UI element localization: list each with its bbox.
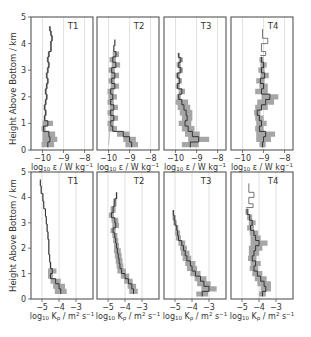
panel-label: T2 xyxy=(133,21,145,31)
y-tick-label: 1 xyxy=(21,119,26,128)
y-tick-label: 4 xyxy=(21,193,26,202)
y-tick-label: 1 xyxy=(21,270,26,279)
panel-label: T4 xyxy=(267,21,279,31)
y-tick-label: 2 xyxy=(21,93,26,102)
x-axis-label: log10 ε / W kg−1 xyxy=(91,162,165,172)
panel-label: T3 xyxy=(200,21,212,31)
panel-label: T1 xyxy=(67,21,79,31)
panel-frame xyxy=(97,17,159,150)
y-tick-label: 0 xyxy=(21,295,26,304)
panel-frame xyxy=(31,172,93,299)
y-tick-label: 0 xyxy=(21,146,26,155)
y-tick-label: 2 xyxy=(21,244,26,253)
x-axis-label: log10 ε / W kg−1 xyxy=(158,162,232,172)
x-axis-label: log10 ε / W kg−1 xyxy=(25,162,99,172)
y-tick-label: 5 xyxy=(21,13,26,22)
panel-bottom-T1: −5−4−3T1 xyxy=(31,172,93,312)
panel-top-T4: −10−9−8T4 xyxy=(231,17,293,163)
x-axis-label: log10 Kρ / m2 s−1 xyxy=(158,311,232,321)
panel-frame xyxy=(164,17,226,150)
x-axis-label: log10 Kρ / m2 s−1 xyxy=(25,311,99,321)
profile-line xyxy=(173,210,209,296)
panel-label: T3 xyxy=(200,176,212,186)
y-tick-label: 4 xyxy=(21,40,26,49)
y-axis-label-bottom: Height Above Bottom / km xyxy=(8,179,18,292)
x-axis-label: log10 ε / W kg−1 xyxy=(225,162,299,172)
panel-bottom-T3: −5−4−3T3 xyxy=(164,172,226,312)
uncertainty-band xyxy=(254,57,278,147)
panel-label: T4 xyxy=(267,176,279,186)
panel-top-T3: −10−9−8T3 xyxy=(164,17,226,163)
uncertainty-band xyxy=(172,210,216,296)
unshaded-profile-line xyxy=(246,183,254,207)
x-axis-label: log10 Kρ / m2 s−1 xyxy=(225,311,299,321)
panel-top-T1: −10−9−8T1 xyxy=(31,17,93,163)
panel-bottom-T2: −5−4−3T2 xyxy=(97,172,159,312)
y-tick-label: 3 xyxy=(21,66,26,75)
uncertainty-band xyxy=(40,180,67,294)
panel-top-T2: −10−9−8T2 xyxy=(97,17,159,163)
panel-frame xyxy=(31,17,93,150)
unshaded-profile-line xyxy=(260,29,267,56)
y-tick-label: 3 xyxy=(21,219,26,228)
panel-bottom-T4: −5−4−3T4 xyxy=(231,172,293,312)
panel-label: T1 xyxy=(67,176,79,186)
panel-label: T2 xyxy=(133,176,145,186)
y-axis-label-top: Height Above Bottom / km xyxy=(8,32,18,145)
x-axis-label: log10 Kρ / m2 s−1 xyxy=(91,311,165,321)
uncertainty-band xyxy=(245,209,270,297)
